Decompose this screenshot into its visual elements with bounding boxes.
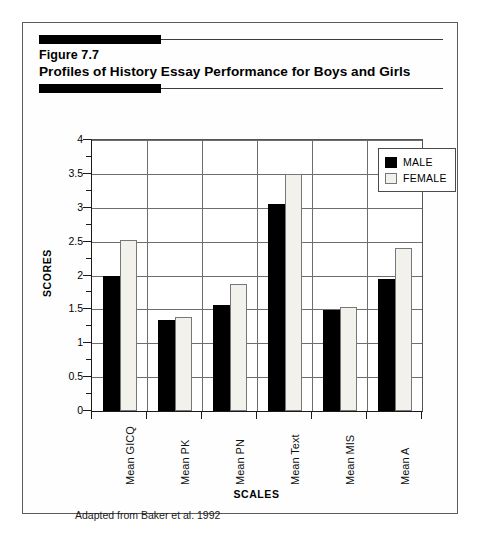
y-axis-major-tick bbox=[83, 173, 91, 174]
x-axis-title: SCALES bbox=[91, 488, 422, 500]
bar bbox=[378, 279, 395, 411]
y-axis-major-tick bbox=[83, 410, 91, 411]
bar bbox=[158, 320, 175, 411]
bar bbox=[323, 310, 340, 411]
y-axis-major-tick bbox=[83, 376, 91, 377]
x-axis-tick bbox=[421, 411, 422, 419]
x-axis-tick-label: Mean PN bbox=[234, 439, 246, 485]
figure-number: Figure 7.7 bbox=[39, 48, 443, 63]
y-axis-major-tick bbox=[83, 241, 91, 242]
y-axis-major-tick bbox=[83, 139, 91, 140]
y-axis-major-tick bbox=[83, 342, 91, 343]
x-axis-tick bbox=[366, 411, 367, 419]
figure-title: Profiles of History Essay Performance fo… bbox=[39, 63, 443, 80]
bar bbox=[285, 174, 302, 411]
figure-header: Figure 7.7 Profiles of History Essay Per… bbox=[39, 35, 443, 93]
figure-title-block: Figure 7.7 Profiles of History Essay Per… bbox=[39, 44, 443, 84]
y-axis-tick-label: 3.5 bbox=[68, 167, 83, 179]
header-black-bar-bottom bbox=[39, 84, 161, 93]
bar-group bbox=[202, 140, 257, 411]
bar bbox=[395, 248, 412, 411]
plot-area: MALE FEMALE bbox=[91, 139, 423, 412]
bar-group bbox=[257, 140, 312, 411]
x-axis-tick-label: Mean PK bbox=[179, 440, 191, 485]
bar bbox=[230, 284, 247, 411]
y-axis-tick-label: 0.5 bbox=[68, 370, 83, 382]
header-rule-bottom bbox=[39, 84, 443, 93]
legend-item: FEMALE bbox=[385, 170, 447, 186]
y-axis-major-tick bbox=[83, 207, 91, 208]
header-thin-rule-bottom bbox=[161, 88, 443, 89]
header-black-bar-top bbox=[39, 35, 161, 44]
x-axis-tick bbox=[91, 411, 92, 419]
y-axis-tick-label: 2.5 bbox=[68, 235, 83, 247]
x-axis-tick-label: Mean MIS bbox=[344, 435, 356, 485]
y-axis-title: SCORES bbox=[41, 249, 53, 297]
x-axis-tick bbox=[201, 411, 202, 419]
legend-item: MALE bbox=[385, 154, 447, 170]
bar bbox=[175, 317, 192, 411]
y-axis-major-tick bbox=[83, 308, 91, 309]
bar bbox=[103, 276, 120, 412]
y-axis-tick-labels: 00.511.522.533.54 bbox=[53, 139, 83, 410]
white-square-swatch-icon bbox=[385, 173, 397, 184]
y-axis-tick-marks bbox=[83, 139, 91, 410]
x-axis-tick-label: Mean Text bbox=[289, 434, 301, 485]
chart-legend: MALE FEMALE bbox=[378, 148, 456, 192]
x-axis-tick-label: Mean A bbox=[399, 448, 411, 485]
bar bbox=[340, 307, 357, 411]
bar bbox=[268, 204, 285, 411]
figure-frame: Figure 7.7 Profiles of History Essay Per… bbox=[22, 22, 458, 514]
y-axis-major-tick bbox=[83, 275, 91, 276]
y-axis-tick-label: 1.5 bbox=[68, 302, 83, 314]
bar-group bbox=[92, 140, 147, 411]
header-thin-rule-top bbox=[161, 39, 443, 40]
black-square-swatch-icon bbox=[385, 157, 397, 168]
x-axis-tick-label: Mean GICQ bbox=[124, 426, 136, 485]
bars-layer bbox=[92, 140, 422, 411]
figure-caption: Adapted from Baker et al. 1992 bbox=[75, 509, 220, 521]
bar-group bbox=[147, 140, 202, 411]
bar-group bbox=[312, 140, 367, 411]
legend-label: MALE bbox=[403, 156, 433, 168]
x-axis-tick bbox=[256, 411, 257, 419]
bar-chart: SCORES 00.511.522.533.54 MALE FEMALE Mea… bbox=[39, 111, 443, 503]
x-axis-tick bbox=[311, 411, 312, 419]
x-axis-tick-labels: Mean GICQMean PKMean PNMean TextMean MIS… bbox=[91, 419, 422, 489]
legend-label: FEMALE bbox=[403, 172, 447, 184]
x-axis-tick-marks bbox=[91, 411, 422, 419]
bar bbox=[213, 305, 230, 411]
bar bbox=[120, 240, 137, 411]
x-axis-tick bbox=[146, 411, 147, 419]
header-rule-top bbox=[39, 35, 443, 44]
